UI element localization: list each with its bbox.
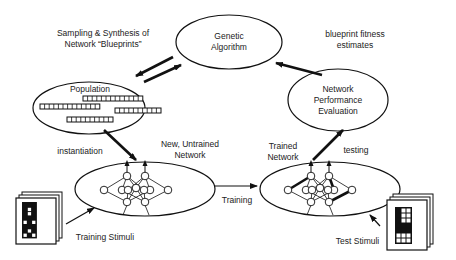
network-neuron: [325, 198, 333, 206]
network-neuron: [325, 172, 333, 180]
stimulus-pixel-off: [397, 234, 401, 238]
network-neuron: [348, 186, 356, 194]
stimulus-pixel-on: [32, 229, 35, 232]
stimulus-pixel-on: [24, 204, 27, 207]
stimulus-pixel-off: [407, 209, 411, 213]
stimulus-pixel-on: [24, 212, 27, 215]
stimulus-pixel-on: [28, 204, 31, 207]
stimulus-pixel-off: [397, 239, 401, 243]
stimulus-pixel-on: [397, 224, 401, 228]
stimulus-pixel-on: [28, 225, 31, 228]
arrow-training-stimuli: [66, 208, 94, 224]
stimulus-pixel-on: [32, 204, 35, 207]
network-neuron: [123, 172, 131, 180]
stimulus-pixel-on: [402, 224, 406, 228]
stimulus-pixel-off: [407, 214, 411, 218]
stimulus-pixel-on: [407, 229, 411, 233]
stimulus-pixel-off: [402, 214, 406, 218]
stimulus-pixel-on: [28, 221, 31, 224]
network-neuron: [284, 186, 292, 194]
test-stimulus-pattern: [395, 207, 412, 244]
stimulus-pixel-on: [397, 229, 401, 233]
stimulus-pixel-on: [32, 212, 35, 215]
network-neuron: [141, 172, 149, 180]
instantiation-label: instantiation: [50, 146, 110, 157]
network-neuron: [308, 186, 316, 194]
test-stimuli-label: Test Stimuli: [330, 236, 385, 247]
arrow-ga-to-population: [136, 57, 173, 76]
arrow-evaluation-to-ga: [276, 63, 322, 75]
stimulus-pixel-on: [397, 214, 401, 218]
network-neuron: [132, 184, 140, 192]
fitness-label: blueprint fitness estimates: [305, 29, 405, 51]
stimulus-pixel-off: [407, 234, 411, 238]
stimulus-pixel-off: [402, 209, 406, 213]
stimulus-pixel-on: [24, 225, 27, 228]
blueprint-4: [67, 117, 113, 122]
blueprint-1: [83, 96, 143, 101]
network-neuron: [307, 198, 315, 206]
evolutionary-network-diagram: Genetic Algorithm Population Network Per…: [0, 0, 456, 260]
network-neuron: [164, 186, 172, 194]
stimulus-grid-border: [22, 202, 37, 238]
stimulus-pixel-on: [397, 209, 401, 213]
population-label: Population: [55, 84, 125, 95]
network-neuron: [316, 184, 324, 192]
stimulus-pixel-off: [28, 212, 31, 215]
arrow-test-stimuli: [370, 215, 380, 226]
stimulus-pixel-off: [402, 239, 406, 243]
stimulus-pixel-off: [28, 229, 31, 232]
stimulus-pixel-on: [32, 208, 35, 211]
blueprint-3: [115, 108, 161, 113]
training-stimulus-pattern: [22, 202, 37, 238]
stimulus-pixel-on: [402, 229, 406, 233]
stimulus-pixel-on: [24, 208, 27, 211]
new-network-label: New, Untrained Network: [150, 139, 230, 161]
performance-evaluation-label: Network Performance Evaluation: [298, 84, 378, 117]
network-neuron: [124, 186, 132, 194]
sampling-label: Sampling & Synthesis of Network “Bluepri…: [38, 28, 168, 50]
network-neuron: [100, 186, 108, 194]
stimulus-pixel-off: [24, 234, 27, 237]
training-label: Training: [212, 195, 262, 206]
stimulus-pixel-off: [402, 219, 406, 223]
stimulus-pixel-off: [402, 234, 406, 238]
stimulus-pixel-off: [407, 239, 411, 243]
training-stimuli-cards: [16, 192, 62, 244]
network-neuron: [307, 172, 315, 180]
trained-network-label: Trained Network: [258, 141, 308, 163]
stimulus-pixel-on: [24, 216, 27, 219]
stimulus-pixel-off: [407, 219, 411, 223]
testing-label: testing: [336, 145, 376, 156]
genetic-algorithm-label: Genetic Algorithm: [189, 31, 269, 53]
test-stimuli-cards: [387, 194, 433, 250]
stimulus-pixel-off: [24, 221, 27, 224]
network-neuron: [140, 186, 148, 194]
stimulus-pixel-on: [32, 225, 35, 228]
blueprint-2: [40, 104, 100, 109]
network-neuron: [324, 186, 332, 194]
training-stimuli-label: Training Stimuli: [70, 232, 140, 243]
stimulus-pixel-on: [24, 229, 27, 232]
stimulus-pixel-on: [32, 216, 35, 219]
stimulus-pixel-on: [397, 219, 401, 223]
stimulus-pixel-off: [32, 221, 35, 224]
stimulus-pixel-on: [28, 216, 31, 219]
arrow-population-to-ga: [144, 65, 181, 82]
network-neuron: [141, 198, 149, 206]
network-neuron: [123, 198, 131, 206]
stimulus-pixel-off: [32, 234, 35, 237]
stimulus-pixel-off: [28, 208, 31, 211]
stimulus-pixel-on: [28, 234, 31, 237]
stimulus-pixel-on: [407, 224, 411, 228]
